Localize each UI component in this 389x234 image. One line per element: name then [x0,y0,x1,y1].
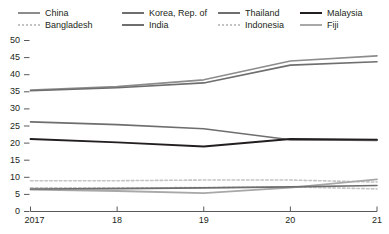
x-axis-tick-label: 18 [100,216,134,225]
y-axis-tick-label: 40 [2,70,20,79]
series-line-korea-rep-of [31,62,378,91]
x-axis-tick-label: 21 [348,216,382,225]
y-axis-tick-label: 0 [2,207,20,216]
y-axis-tick-label: 15 [2,156,20,165]
series-line-bangladesh [31,180,378,182]
plot-svg [0,0,389,234]
x-axis-tick-label: 20 [273,216,307,225]
series-line-malaysia [31,139,378,147]
x-axis-tick-label: 2017 [25,216,59,225]
line-chart: ChinaKorea, Rep. ofThailandMalaysiaBangl… [0,0,389,234]
plot-area: 05101520253035404550201718192021 [0,0,389,234]
series-line-thailand [31,122,378,140]
y-axis-tick-label: 10 [2,173,20,182]
series-line-china [31,56,378,90]
y-axis-tick-label: 5 [2,190,20,199]
x-axis-tick-label: 19 [187,216,221,225]
y-axis-tick-label: 35 [2,87,20,96]
y-axis-tick-label: 50 [2,36,20,45]
y-axis-tick-label: 25 [2,122,20,131]
y-axis-tick-label: 45 [2,53,20,62]
y-axis-tick-label: 30 [2,104,20,113]
y-axis-tick-label: 20 [2,139,20,148]
